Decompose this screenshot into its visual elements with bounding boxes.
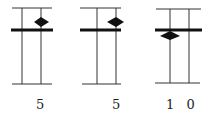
panel-1 <box>11 8 53 84</box>
diamond-marker <box>34 17 49 27</box>
panel-2-label: 5 <box>112 97 120 112</box>
panel-3-label: 1 0 <box>166 97 199 112</box>
panel-2 <box>80 8 124 84</box>
diamond-marker <box>160 31 180 40</box>
panel-1-label: 5 <box>36 97 44 112</box>
diamond-marker <box>107 17 124 27</box>
panel-3 <box>155 9 202 83</box>
